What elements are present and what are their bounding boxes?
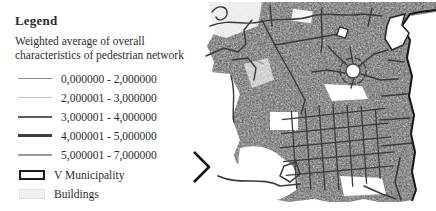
line-swatch-1 bbox=[18, 97, 52, 99]
map-image bbox=[192, 0, 436, 211]
line-swatch-0 bbox=[18, 78, 52, 80]
legend-item-label: 2,000001 - 3,000000 bbox=[61, 92, 157, 104]
legend-item-class1: 0,000000 - 2,000000 bbox=[15, 69, 205, 88]
legend-item-municipality: V Municipality bbox=[15, 166, 205, 183]
legend-item-class4: 4,000001 - 5,000000 bbox=[15, 126, 205, 145]
legend-subtitle: Weighted average of overall characterist… bbox=[15, 34, 201, 62]
municipality-swatch bbox=[19, 170, 45, 180]
figure: Legend Weighted average of overall chara… bbox=[0, 0, 436, 211]
line-swatch-3 bbox=[18, 134, 52, 137]
legend-items: 0,000000 - 2,000000 2,000001 - 3,000000 … bbox=[15, 69, 205, 202]
legend-item-class5: 5,000001 - 7,000000 bbox=[15, 145, 205, 164]
legend-title: Legend bbox=[15, 13, 205, 29]
legend-item-label: 5,000001 - 7,000000 bbox=[61, 149, 157, 161]
line-swatch-4 bbox=[18, 154, 52, 156]
legend-item-buildings: Buildings bbox=[15, 185, 205, 202]
legend-item-label: Buildings bbox=[54, 188, 99, 200]
legend-item-label: 0,000000 - 2,000000 bbox=[61, 73, 157, 85]
legend-item-class2: 2,000001 - 3,000000 bbox=[15, 88, 205, 107]
line-swatch-2 bbox=[18, 116, 52, 118]
legend-item-label: 4,000001 - 5,000000 bbox=[61, 130, 157, 142]
buildings-swatch bbox=[19, 189, 45, 199]
legend-item-label: V Municipality bbox=[54, 169, 124, 181]
legend-panel: Legend Weighted average of overall chara… bbox=[15, 13, 205, 202]
legend-item-label: 3,000001 - 4,000000 bbox=[61, 111, 157, 123]
legend-item-class3: 3,000001 - 4,000000 bbox=[15, 107, 205, 126]
